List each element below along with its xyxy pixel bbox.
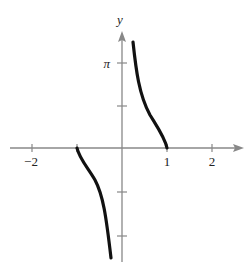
y-axis-label: y [115, 12, 123, 27]
plot-svg: y π −2 1 2 [0, 0, 251, 266]
x-tick-label-2: 2 [209, 154, 216, 169]
chart: y π −2 1 2 [0, 0, 251, 266]
x-tick-label-1: 1 [164, 154, 171, 169]
x-tick-label-neg2: −2 [24, 154, 38, 169]
curve-left-branch [77, 148, 111, 258]
y-tick-label-pi: π [103, 56, 110, 71]
curve-right-branch [133, 42, 167, 148]
